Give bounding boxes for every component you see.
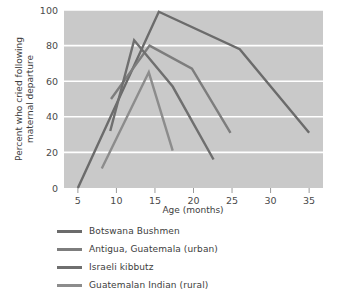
x-axis-tick-label: 35 — [303, 195, 315, 206]
x-axis-ticks — [78, 188, 309, 193]
legend-item[interactable]: Israeli kibbutz — [0, 258, 345, 276]
legend-item[interactable]: Botswana Bushmen — [0, 222, 345, 240]
x-axis-tick-label: 5 — [75, 195, 81, 206]
legend-item-label: Israeli kibbutz — [89, 262, 154, 272]
chart-figure: 020406080100 5101520253035 Percent who c… — [0, 0, 345, 301]
legend-item-label: Botswana Bushmen — [89, 226, 180, 236]
legend-item-label: Guatemalan Indian (rural) — [89, 280, 208, 290]
x-axis-tick-label: 15 — [149, 195, 161, 206]
legend-item-label: Antigua, Guatemala (urban) — [89, 244, 218, 254]
y-axis-tick-label: 20 — [46, 147, 58, 158]
x-axis-tick-label: 25 — [226, 195, 238, 206]
legend-line-swatch — [57, 230, 82, 233]
y-axis-title-line2: maternal departure — [25, 55, 35, 143]
y-axis-tick-label: 80 — [46, 40, 58, 51]
legend-item[interactable]: Antigua, Guatemala (urban) — [0, 240, 345, 258]
x-axis-title: Age (months) — [162, 205, 223, 215]
chart-legend: Botswana BushmenAntigua, Guatemala (urba… — [0, 222, 345, 294]
y-axis-tick-label: 100 — [40, 5, 58, 16]
plot-area-background — [64, 10, 323, 188]
y-axis-tick-labels: 020406080100 — [40, 5, 58, 194]
x-axis-tick-label: 10 — [110, 195, 122, 206]
legend-line-swatch — [57, 284, 82, 287]
legend-item[interactable]: Guatemalan Indian (rural) — [0, 276, 345, 294]
y-axis-title-line1: Percent who cried following — [14, 37, 24, 161]
x-axis-tick-label: 30 — [265, 195, 277, 206]
y-axis-tick-label: 40 — [46, 111, 58, 122]
y-axis-tick-label: 60 — [46, 76, 58, 87]
y-axis-tick-label: 0 — [52, 183, 58, 194]
legend-line-swatch — [57, 266, 82, 269]
legend-line-swatch — [57, 248, 82, 251]
